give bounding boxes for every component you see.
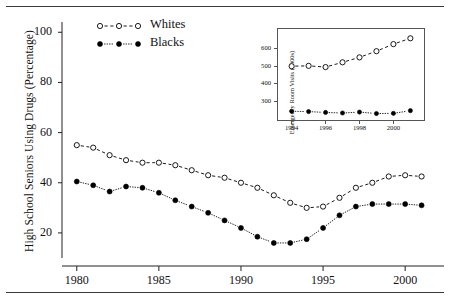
inset-chart: Emergency Room Visits (1000s) 3004005006… (277, 28, 425, 121)
inset-y-tick-mark (274, 48, 278, 49)
data-point (107, 189, 112, 194)
data-point (156, 190, 161, 195)
inset-x-tick-2000: 2000 (381, 124, 405, 131)
data-point (320, 204, 325, 209)
data-point (255, 234, 260, 239)
data-point (340, 111, 344, 115)
data-point (238, 225, 243, 230)
data-point (304, 237, 309, 242)
data-point (386, 202, 391, 207)
inset-x-tick-mark (325, 120, 326, 124)
data-point (140, 160, 145, 165)
data-point (306, 109, 310, 113)
data-point (408, 36, 413, 41)
main-series-blacks (74, 179, 424, 245)
inset-y-tick-500: 500 (249, 62, 271, 69)
data-point (337, 195, 342, 200)
data-point (290, 109, 294, 113)
inset-y-tick-600: 600 (249, 44, 271, 51)
main-y-tick-60: 60 (18, 125, 52, 140)
data-point (357, 110, 361, 114)
data-point (156, 160, 161, 165)
inset-series-blacks (290, 109, 413, 116)
data-point (173, 163, 178, 168)
data-point (323, 64, 328, 69)
inset-x-tick-1994: 1994 (280, 124, 304, 131)
legend-label-whites: Whites (150, 17, 185, 32)
inset-x-tick-mark (393, 120, 394, 124)
inset-y-tick-400: 400 (249, 79, 271, 86)
inset-series-whites (289, 36, 413, 70)
data-point (289, 64, 294, 69)
main-y-tick-20: 20 (18, 225, 52, 240)
data-point (124, 184, 129, 189)
figure-canvas: High School Seniors Using Drugs (Percent… (0, 0, 450, 303)
data-point (353, 185, 358, 190)
main-x-tick-1985: 1985 (137, 273, 181, 288)
inset-x-tick-1996: 1996 (314, 124, 338, 131)
data-point (222, 218, 227, 223)
data-point (370, 180, 375, 185)
data-point (222, 175, 227, 180)
data-point (374, 49, 379, 54)
data-point (173, 198, 178, 203)
data-point (337, 213, 342, 218)
data-point (123, 158, 128, 163)
legend-label-blacks: Blacks (150, 35, 184, 50)
data-point (255, 185, 260, 190)
data-point (306, 63, 311, 68)
data-point (206, 210, 211, 215)
inset-y-tick-mark (274, 66, 278, 67)
data-point (304, 205, 309, 210)
data-point (374, 111, 378, 115)
inset-plot-area (278, 29, 424, 120)
data-point (288, 200, 293, 205)
inset-x-tick-mark (359, 120, 360, 124)
main-x-tick-1990: 1990 (219, 273, 263, 288)
main-y-tick-80: 80 (18, 74, 52, 89)
main-y-tick-100: 100 (18, 24, 52, 39)
main-series-whites (74, 143, 424, 211)
data-point (189, 168, 194, 173)
data-point (140, 185, 145, 190)
data-point (419, 174, 424, 179)
main-y-tick-40: 40 (18, 175, 52, 190)
data-point (271, 193, 276, 198)
data-point (288, 240, 293, 245)
data-point (403, 202, 408, 207)
data-point (74, 143, 79, 148)
data-point (91, 183, 96, 188)
data-point (386, 174, 391, 179)
data-point (189, 204, 194, 209)
data-point (74, 179, 79, 184)
data-point (107, 153, 112, 158)
inset-x-tick-1998: 1998 (347, 124, 371, 131)
data-point (391, 111, 395, 115)
data-point (206, 173, 211, 178)
data-point (321, 225, 326, 230)
data-point (353, 204, 358, 209)
main-x-tick-2000: 2000 (383, 273, 427, 288)
data-point (408, 109, 412, 113)
inset-y-tick-300: 300 (249, 97, 271, 104)
main-x-tick-1980: 1980 (55, 273, 99, 288)
data-point (91, 145, 96, 150)
inset-x-tick-mark (291, 120, 292, 124)
data-point (391, 42, 396, 47)
main-x-tick-1995: 1995 (301, 273, 345, 288)
data-point (323, 110, 327, 114)
inset-y-tick-mark (274, 83, 278, 84)
data-point (238, 180, 243, 185)
data-point (419, 203, 424, 208)
inset-y-tick-mark (274, 101, 278, 102)
data-point (271, 240, 276, 245)
data-point (403, 173, 408, 178)
data-point (357, 55, 362, 60)
data-point (340, 60, 345, 65)
data-point (370, 202, 375, 207)
